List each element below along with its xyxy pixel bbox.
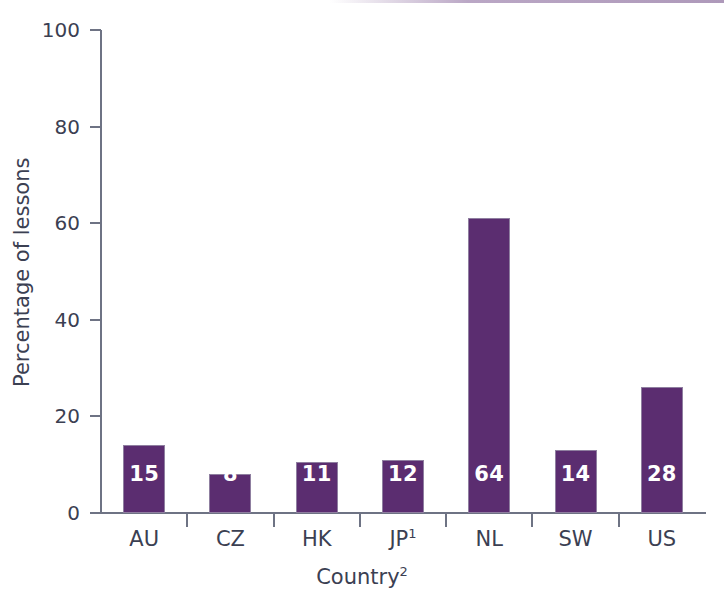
x-axis-tick-label-superscript: 1 xyxy=(408,526,416,541)
bar-chart-figure: 020406080100 1581112641428 AUCZHKJP1NLSW… xyxy=(0,0,724,605)
x-axis-tick xyxy=(445,514,447,527)
y-axis-tick xyxy=(90,222,101,224)
y-axis-tick xyxy=(90,415,101,417)
bar-value-label: 64 xyxy=(469,462,509,486)
bar[interactable]: 8 xyxy=(209,474,251,513)
x-axis-tick xyxy=(186,514,188,527)
bar[interactable]: 15 xyxy=(123,445,165,513)
y-axis-tick-label: 20 xyxy=(0,404,80,428)
x-axis-tick-label: CZ xyxy=(216,527,245,551)
bar[interactable]: 12 xyxy=(382,460,424,513)
x-axis-tick-label-text: US xyxy=(647,527,676,551)
x-axis-tick xyxy=(359,514,361,527)
y-axis-tick xyxy=(90,126,101,128)
x-axis-tick-label: HK xyxy=(302,527,332,551)
x-axis-tick-label-text: SW xyxy=(559,527,593,551)
x-axis-tick xyxy=(531,514,533,527)
x-axis-title-text: Country xyxy=(316,565,399,589)
x-axis-tick-label-text: HK xyxy=(302,527,332,551)
x-axis-tick xyxy=(273,514,275,527)
x-axis-tick-label-text: CZ xyxy=(216,527,245,551)
x-axis-tick-label: AU xyxy=(129,527,159,551)
y-axis-title: Percentage of lessons xyxy=(10,167,34,387)
bar[interactable]: 28 xyxy=(641,387,683,513)
bar-value-label: 15 xyxy=(124,462,164,486)
x-axis-tick-label-text: AU xyxy=(129,527,159,551)
y-axis-tick-label: 100 xyxy=(0,18,80,42)
y-axis-tick xyxy=(90,512,101,514)
x-axis-title-superscript: 2 xyxy=(400,564,408,579)
bar[interactable]: 11 xyxy=(296,462,338,513)
scan-edge-artifact xyxy=(330,0,724,3)
x-axis-title: Country2 xyxy=(0,565,724,589)
bar-value-label: 14 xyxy=(556,462,596,486)
bars-layer: 1581112641428 xyxy=(101,30,705,513)
bar[interactable]: 64 xyxy=(468,218,510,513)
y-axis-tick xyxy=(90,319,101,321)
x-axis-tick-label: JP1 xyxy=(389,527,416,551)
x-axis-tick-label: NL xyxy=(476,527,503,551)
bar-value-label: 11 xyxy=(297,462,337,486)
x-axis-tick-label: SW xyxy=(559,527,593,551)
bar-value-label: 8 xyxy=(210,462,250,486)
bar[interactable]: 14 xyxy=(555,450,597,513)
y-axis-tick-label: 0 xyxy=(0,501,80,525)
bar-value-label: 28 xyxy=(642,462,682,486)
x-axis-tick-label-text: JP xyxy=(389,527,408,551)
x-axis-tick xyxy=(618,514,620,527)
x-axis-tick-label: US xyxy=(647,527,676,551)
y-axis-tick xyxy=(90,29,101,31)
y-axis-tick-label: 80 xyxy=(0,115,80,139)
x-axis-tick-label-text: NL xyxy=(476,527,503,551)
bar-value-label: 12 xyxy=(383,462,423,486)
